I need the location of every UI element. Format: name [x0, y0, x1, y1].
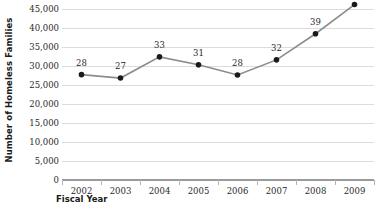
x-axis-tick-label: 2007 [266, 186, 288, 196]
data-point-marker [352, 2, 358, 8]
x-axis-tick-mark [62, 180, 63, 185]
data-point-label: 32 [271, 43, 282, 53]
y-axis-title-text: Number of Homeless Families [4, 17, 14, 162]
x-axis-title: Fiscal Year [56, 194, 108, 204]
y-axis-tick-label: 45,000 [29, 4, 59, 14]
x-axis-tick-mark [218, 180, 219, 185]
data-point-label: 39 [310, 17, 321, 27]
data-point-label: 28 [76, 58, 87, 68]
y-axis-tick-label: 5,000 [35, 156, 59, 166]
data-point-marker [235, 72, 241, 78]
x-axis-tick-mark [140, 180, 141, 185]
x-axis-tick-mark [296, 180, 297, 185]
x-axis-tick-mark [335, 180, 336, 185]
x-axis-tick-label: 2003 [110, 186, 132, 196]
plot-area: 2827333128323947 [62, 0, 374, 180]
y-axis-tick-label: 35,000 [29, 42, 59, 52]
data-point-label: 33 [154, 40, 165, 50]
x-axis-tick-label: 2006 [227, 186, 249, 196]
data-point-label: 31 [193, 48, 204, 58]
data-point-marker [274, 57, 280, 63]
y-axis-tick-label: 25,000 [29, 80, 59, 90]
y-axis-tick-label: 10,000 [29, 137, 59, 147]
y-axis-tick-labels: 05,00010,00015,00020,00025,00030,00035,0… [18, 0, 62, 180]
data-point-marker [313, 31, 319, 37]
data-point-label: 28 [232, 58, 243, 68]
x-axis-tick-label: 2009 [344, 186, 366, 196]
line-series [62, 0, 374, 180]
data-point-marker [196, 62, 202, 68]
x-axis-tick-label: 2004 [149, 186, 171, 196]
x-axis-tick-mark [101, 180, 102, 185]
x-axis-tick-mark [179, 180, 180, 185]
y-axis-tick-label: 0 [54, 175, 59, 185]
data-point-marker [118, 75, 124, 81]
x-axis-tick-label: 2008 [305, 186, 327, 196]
y-axis-tick-label: 20,000 [29, 99, 59, 109]
y-axis-tick-label: 30,000 [29, 61, 59, 71]
x-axis-tick-label: 2005 [188, 186, 210, 196]
data-point-marker [157, 54, 163, 60]
x-axis: 20022003200420052006200720082009 [62, 180, 374, 202]
data-point-marker [79, 72, 85, 78]
x-axis-tick-mark [257, 180, 258, 185]
chart-figure: Number of Homeless Families 05,00010,000… [0, 0, 380, 211]
y-axis-title: Number of Homeless Families [0, 0, 18, 180]
y-axis-tick-label: 40,000 [29, 23, 59, 33]
x-axis-tick-mark [374, 180, 375, 185]
y-axis-tick-label: 15,000 [29, 118, 59, 128]
data-point-label: 27 [115, 61, 126, 71]
